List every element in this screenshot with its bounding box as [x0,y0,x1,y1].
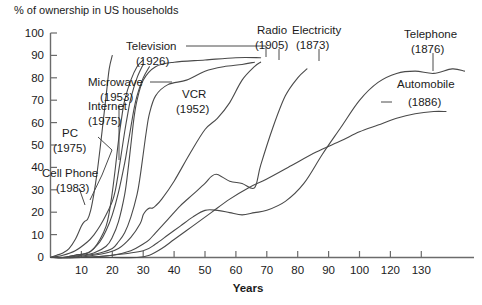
y-axis-tick-labels: 100 90 80 70 60 50 40 30 20 10 0 [25,27,44,263]
curve-electricity [51,69,307,258]
x-axis-title: Years [233,282,264,294]
adoption-curves-chart: % of ownership in US households 100 90 8… [0,0,482,305]
annotation-microwave-label: Microwave [88,76,143,88]
annotation-telephone-year: (1876) [411,43,444,55]
leader-lines [79,46,433,205]
x-tick-label: 90 [322,264,335,276]
x-tick-label: 60 [230,264,243,276]
y-tick-label: 80 [31,72,44,84]
y-tick-label: 90 [31,49,44,61]
annotation-internet-year: (1975) [88,115,121,127]
annotation-cellphone-label: Cell Phone [42,167,98,179]
y-tick-label: 50 [31,139,44,151]
chart-svg: % of ownership in US households 100 90 8… [0,0,482,305]
x-axis-ticks [81,251,421,258]
annotation-internet-label: Internet [88,100,128,112]
leader-television [186,46,266,57]
annotation-telephone-label: Telephone [404,28,457,40]
x-tick-label: 50 [199,264,212,276]
chart-title: % of ownership in US households [14,4,179,16]
x-tick-label: 80 [291,264,304,276]
axes [51,33,475,258]
annotation-pc-label: PC [62,127,78,139]
x-tick-label: 130 [412,264,431,276]
annotation-vcr-year: (1952) [176,103,209,115]
y-tick-label: 30 [31,184,44,196]
y-tick-label: 70 [31,94,44,106]
x-tick-label: 30 [137,264,150,276]
curve-radio [51,62,261,257]
y-tick-label: 10 [31,229,44,241]
annotation-cellphone-year: (1983) [56,182,89,194]
annotation-pc-year: (1975) [53,142,86,154]
y-tick-label: 100 [25,27,44,39]
annotation-radio-year: (1905) [255,39,288,51]
annotation-electricity-year: (1873) [296,39,329,51]
x-tick-label: 70 [260,264,273,276]
curve-automobile [51,111,447,257]
annotation-television-label: Television [126,40,177,52]
annotation-electricity-label: Electricity [292,24,341,36]
x-tick-label: 40 [168,264,181,276]
curve-television [51,58,261,258]
annotation-radio-label: Radio [257,24,287,36]
annotation-vcr-label: VCR [182,88,206,100]
x-axis-tick-labels: 10 20 30 40 50 60 70 80 90 100 120 130 [75,264,431,276]
x-tick-label: 120 [381,264,400,276]
curve-vcr [51,62,255,257]
x-tick-label: 10 [75,264,88,276]
x-tick-label: 20 [106,264,119,276]
annotation-automobile-year: (1886) [408,96,441,108]
y-tick-label: 20 [31,206,44,218]
annotation-automobile-label: Automobile [397,78,455,90]
annotation-television-year: (1926) [136,55,169,67]
y-tick-label: 60 [31,117,44,129]
y-tick-label: 0 [38,251,44,263]
x-tick-label: 100 [350,264,369,276]
